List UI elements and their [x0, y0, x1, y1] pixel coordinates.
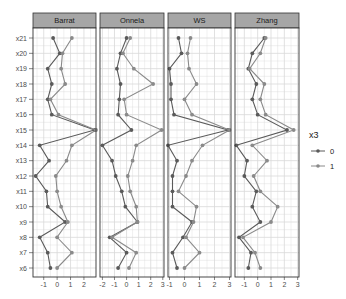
data-point: [101, 143, 105, 147]
data-point: [114, 174, 118, 178]
data-point: [65, 159, 69, 163]
x-tick-label: -1: [41, 281, 47, 288]
data-point: [253, 251, 257, 255]
data-point: [292, 128, 296, 132]
data-point: [125, 36, 129, 40]
data-point: [169, 97, 173, 101]
data-point: [171, 251, 175, 255]
data-point: [131, 159, 135, 163]
data-point: [117, 97, 121, 101]
legend-label-0: 0: [330, 147, 334, 156]
data-point: [242, 174, 246, 178]
data-point: [132, 67, 136, 71]
x-tick-label: 0: [55, 281, 59, 288]
data-point: [189, 36, 193, 40]
data-point: [250, 205, 254, 209]
data-point: [177, 36, 181, 40]
y-tick-label: x6: [20, 265, 28, 272]
data-point: [59, 67, 63, 71]
facet-strip-label: Zhang: [256, 16, 277, 25]
y-tick-label: x13: [16, 157, 27, 164]
data-point: [49, 266, 53, 270]
data-point: [190, 113, 194, 117]
data-point: [250, 51, 254, 55]
data-point: [55, 235, 59, 239]
data-point: [122, 97, 126, 101]
x-tick-label: 1: [269, 281, 273, 288]
data-point: [171, 174, 175, 178]
data-point: [63, 82, 67, 86]
data-point: [258, 189, 262, 193]
data-point: [51, 36, 55, 40]
data-point: [285, 128, 289, 132]
data-point: [250, 143, 254, 147]
data-point: [129, 128, 133, 132]
facet-barrat: Barrat-1012: [33, 13, 98, 288]
data-point: [269, 220, 273, 224]
data-point: [46, 67, 50, 71]
data-point: [110, 159, 114, 163]
data-point: [171, 205, 175, 209]
data-point: [70, 36, 74, 40]
data-point: [125, 113, 129, 117]
data-point: [134, 205, 138, 209]
data-point: [127, 266, 131, 270]
data-point: [49, 97, 53, 101]
data-point: [46, 205, 50, 209]
data-point: [169, 82, 173, 86]
x-tick-label: 2: [82, 281, 86, 288]
data-point: [201, 143, 205, 147]
x-tick-label: -2: [99, 281, 105, 288]
data-point: [70, 251, 74, 255]
x-tick-label: 1: [137, 281, 141, 288]
legend-item-0: 0: [311, 147, 334, 156]
data-point: [55, 266, 59, 270]
y-axis: x6x7x8x9x10x11x12x13x14x15x16x17x18x19x2…: [16, 35, 33, 272]
y-tick-label: x14: [16, 142, 27, 149]
data-point: [121, 51, 125, 55]
data-point: [175, 159, 179, 163]
data-point: [70, 143, 74, 147]
data-point: [134, 251, 138, 255]
data-point: [38, 235, 42, 239]
y-tick-label: x19: [16, 65, 27, 72]
data-point: [172, 113, 176, 117]
x-tick-label: 2: [149, 281, 153, 288]
faceted-line-chart: x6x7x8x9x10x11x12x13x14x15x16x17x18x19x2…: [0, 0, 346, 299]
facet-strip-label: Barrat: [54, 16, 75, 25]
data-point: [119, 82, 123, 86]
data-point: [50, 82, 54, 86]
y-tick-label: x18: [16, 81, 27, 88]
x-tick-label: 0: [256, 281, 260, 288]
y-tick-label: x15: [16, 127, 27, 134]
facet-strip-label: Onnela: [120, 16, 145, 25]
data-point: [198, 251, 202, 255]
x-tick-label: 3: [296, 281, 300, 288]
data-point: [160, 128, 164, 132]
x-tick-label: 2: [282, 281, 286, 288]
y-tick-label: x7: [20, 249, 28, 256]
data-point: [237, 235, 241, 239]
y-tick-label: x11: [16, 188, 27, 195]
data-point: [258, 51, 262, 55]
data-point: [186, 51, 190, 55]
data-point: [241, 235, 245, 239]
x-tick-label: -1: [241, 281, 247, 288]
data-point: [276, 205, 280, 209]
data-point: [116, 266, 120, 270]
data-point: [250, 97, 254, 101]
data-point: [54, 174, 58, 178]
data-point: [38, 143, 42, 147]
data-point: [45, 189, 49, 193]
data-point: [34, 174, 38, 178]
data-point: [264, 113, 268, 117]
x-tick-label: 3: [228, 281, 232, 288]
data-point: [184, 174, 188, 178]
data-point: [171, 189, 175, 193]
data-point: [120, 189, 124, 193]
data-point: [195, 82, 199, 86]
y-tick-label: x9: [20, 219, 28, 226]
data-point: [254, 189, 258, 193]
data-point: [116, 113, 120, 117]
data-point: [125, 251, 129, 255]
